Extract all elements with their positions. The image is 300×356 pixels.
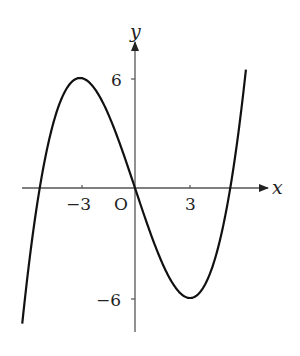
origin-label: O	[114, 194, 128, 214]
x-tick-label-neg3: −3	[66, 194, 91, 214]
cubic-curve	[22, 70, 246, 324]
x-tick-label-3: 3	[185, 194, 196, 214]
y-axis-label: y	[129, 20, 141, 42]
y-tick-label-neg6: −6	[96, 290, 121, 310]
cubic-graph: y x O −3 3 6 −6	[0, 0, 300, 356]
y-tick-label-6: 6	[111, 70, 122, 90]
x-axis-label: x	[272, 176, 283, 198]
